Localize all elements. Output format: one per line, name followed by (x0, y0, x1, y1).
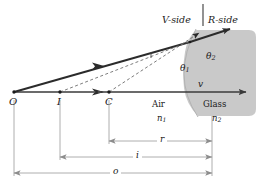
dimension-label-r: r (157, 135, 167, 144)
medium-right-name: Glass (203, 100, 226, 109)
extension-lines (14, 100, 212, 176)
theta2-subscript: 2 (211, 54, 215, 62)
incident-ray (14, 42, 190, 92)
point-marker-o (12, 90, 15, 93)
point-label-o: O (9, 97, 17, 107)
point-marker-c (107, 90, 110, 93)
medium-left-name: Air (152, 100, 165, 109)
v-side-label: V-side (162, 15, 191, 25)
axis-velocity-label: v (198, 80, 203, 89)
theta2-label: θ2 (206, 52, 216, 62)
point-label-c: C (105, 97, 113, 107)
refraction-diagram: V-side R-side θ2 θ1 O I C v Air n1 Glass… (0, 0, 263, 189)
point-marker-i (58, 90, 61, 93)
dimension-label-o: o (110, 167, 121, 176)
diagram-canvas (0, 0, 263, 189)
medium-right-index-subscript: 2 (217, 116, 221, 123)
theta1-subscript: 1 (185, 66, 189, 74)
refraction-point (189, 41, 192, 44)
r-side-label: R-side (208, 15, 238, 25)
medium-left-index: n1 (157, 114, 166, 123)
image-construction-line (60, 41, 191, 92)
dimension-label-i: i (133, 151, 142, 160)
theta1-label: θ1 (180, 64, 190, 74)
medium-right-index: n2 (212, 114, 221, 123)
medium-left-index-subscript: 1 (162, 116, 166, 123)
point-label-i: I (57, 97, 61, 107)
